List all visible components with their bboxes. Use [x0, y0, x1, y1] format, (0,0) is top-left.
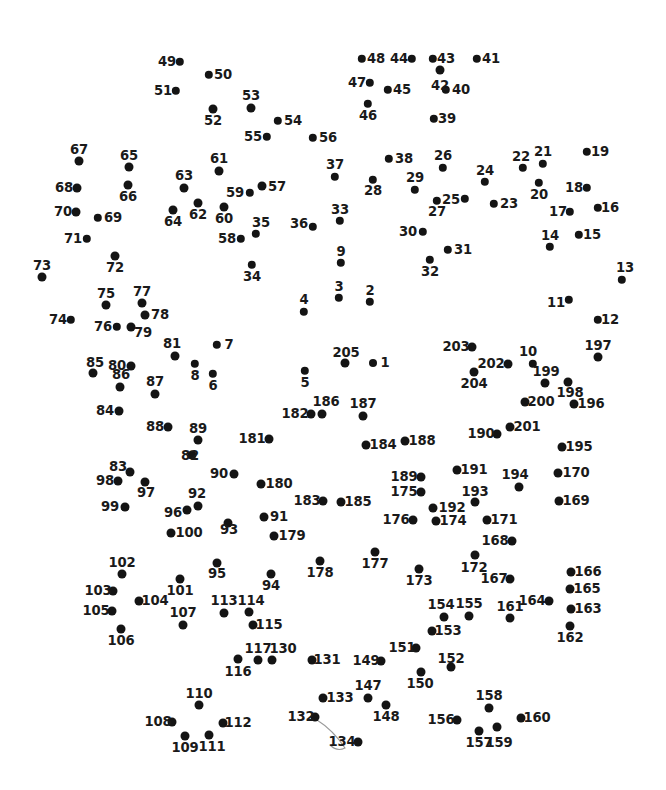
puzzle-dot-label-52: 52 — [204, 114, 222, 127]
puzzle-dot-label-79: 79 — [134, 326, 152, 339]
puzzle-dot-19 — [583, 148, 591, 156]
puzzle-dot-label-37: 37 — [326, 158, 344, 171]
puzzle-dot-label-188: 188 — [409, 434, 436, 447]
puzzle-dot-label-182: 182 — [282, 407, 309, 420]
puzzle-dot-7 — [213, 341, 221, 349]
puzzle-dot-192 — [429, 504, 438, 513]
puzzle-dot-6 — [209, 370, 217, 378]
puzzle-dot-label-6: 6 — [209, 379, 218, 392]
puzzle-dot-label-43: 43 — [437, 52, 455, 65]
puzzle-dot-label-15: 15 — [583, 228, 601, 241]
puzzle-dot-60 — [220, 203, 229, 212]
puzzle-dot-65 — [125, 163, 134, 172]
puzzle-dot-35 — [252, 230, 260, 238]
puzzle-dot-label-61: 61 — [210, 152, 228, 165]
puzzle-dot-label-20: 20 — [530, 188, 548, 201]
puzzle-dot-label-50: 50 — [214, 68, 232, 81]
puzzle-dot-label-51: 51 — [154, 84, 172, 97]
puzzle-dot-label-32: 32 — [421, 265, 439, 278]
puzzle-dot-label-8: 8 — [191, 369, 200, 382]
puzzle-dot-177 — [371, 548, 380, 557]
puzzle-dot-4 — [300, 308, 308, 316]
puzzle-dot-label-158: 158 — [476, 689, 503, 702]
puzzle-dot-186 — [318, 410, 327, 419]
puzzle-dot-label-180: 180 — [266, 477, 293, 490]
puzzle-dot-label-154: 154 — [428, 598, 455, 611]
puzzle-dot-label-3: 3 — [335, 280, 344, 293]
puzzle-dot-label-27: 27 — [428, 205, 446, 218]
puzzle-dot-label-63: 63 — [175, 169, 193, 182]
puzzle-dot-102 — [118, 570, 127, 579]
puzzle-dot-label-112: 112 — [225, 716, 252, 729]
puzzle-dot-11 — [565, 296, 573, 304]
puzzle-dot-label-181: 181 — [239, 432, 266, 445]
puzzle-dot-92 — [194, 502, 203, 511]
puzzle-dot-label-33: 33 — [331, 203, 349, 216]
puzzle-dot-label-71: 71 — [64, 232, 82, 245]
puzzle-dot-46 — [364, 100, 372, 108]
puzzle-dot-3 — [335, 294, 343, 302]
puzzle-dot-label-160: 160 — [524, 711, 551, 724]
puzzle-dot-42 — [436, 66, 445, 75]
puzzle-dot-label-73: 73 — [33, 259, 51, 272]
puzzle-dot-181 — [265, 435, 274, 444]
puzzle-dot-label-99: 99 — [101, 500, 119, 513]
puzzle-dot-50 — [205, 71, 213, 79]
puzzle-dot-label-60: 60 — [215, 212, 233, 225]
puzzle-dot-94 — [267, 570, 276, 579]
puzzle-dot-199 — [541, 379, 550, 388]
puzzle-dot-17 — [566, 208, 574, 216]
puzzle-dot-label-116: 116 — [225, 665, 252, 678]
puzzle-dot-label-22: 22 — [512, 150, 530, 163]
puzzle-dot-label-88: 88 — [146, 420, 164, 433]
puzzle-dot-9 — [337, 259, 345, 267]
puzzle-dot-157 — [475, 727, 484, 736]
puzzle-dot-label-166: 166 — [575, 565, 602, 578]
puzzle-dot-label-106: 106 — [108, 634, 135, 647]
puzzle-dot-label-197: 197 — [585, 339, 612, 352]
puzzle-dot-label-44: 44 — [390, 52, 408, 65]
puzzle-dot-41 — [473, 55, 481, 63]
puzzle-dot-45 — [384, 86, 392, 94]
puzzle-dot-label-108: 108 — [145, 715, 172, 728]
puzzle-dot-180 — [257, 480, 266, 489]
puzzle-dot-label-200: 200 — [528, 395, 555, 408]
puzzle-dot-label-169: 169 — [563, 494, 590, 507]
puzzle-dot-label-205: 205 — [333, 346, 360, 359]
puzzle-dot-63 — [180, 184, 189, 193]
puzzle-dot-label-76: 76 — [94, 320, 112, 333]
puzzle-dot-32 — [426, 256, 434, 264]
puzzle-dot-label-148: 148 — [373, 710, 400, 723]
puzzle-dot-36 — [309, 223, 317, 231]
puzzle-dot-label-78: 78 — [151, 308, 169, 321]
puzzle-dot-77 — [138, 299, 147, 308]
puzzle-dot-48 — [358, 55, 366, 63]
puzzle-dot-158 — [485, 704, 494, 713]
puzzle-dot-label-31: 31 — [454, 243, 472, 256]
puzzle-dot-164 — [545, 597, 554, 606]
puzzle-dot-label-163: 163 — [575, 602, 602, 615]
puzzle-dot-label-23: 23 — [500, 197, 518, 210]
puzzle-dot-8 — [191, 360, 199, 368]
puzzle-dot-label-178: 178 — [307, 566, 334, 579]
puzzle-dot-43 — [429, 55, 437, 63]
puzzle-dot-52 — [209, 105, 218, 114]
puzzle-dot-label-91: 91 — [270, 510, 288, 523]
puzzle-dot-label-133: 133 — [327, 691, 354, 704]
puzzle-dot-78 — [141, 311, 150, 320]
puzzle-dot-155 — [465, 612, 474, 621]
puzzle-dot-label-2: 2 — [366, 284, 375, 297]
puzzle-dot-label-199: 199 — [533, 365, 560, 378]
puzzle-dot-label-179: 179 — [279, 529, 306, 542]
puzzle-dot-96 — [183, 506, 192, 515]
puzzle-dot-117 — [254, 656, 263, 665]
puzzle-dot-label-189: 189 — [391, 470, 418, 483]
puzzle-dot-89 — [194, 436, 203, 445]
puzzle-dot-label-175: 175 — [391, 485, 418, 498]
puzzle-dot-26 — [439, 164, 447, 172]
puzzle-dot-20 — [535, 179, 543, 187]
puzzle-dot-label-113: 113 — [211, 594, 238, 607]
puzzle-dot-label-54: 54 — [284, 114, 302, 127]
puzzle-dot-label-130: 130 — [270, 642, 297, 655]
puzzle-dot-label-64: 64 — [164, 215, 182, 228]
